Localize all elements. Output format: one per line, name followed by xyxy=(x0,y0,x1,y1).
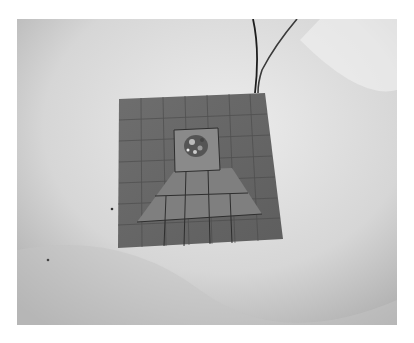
speck xyxy=(111,208,114,211)
tiled-board xyxy=(118,93,283,248)
center-sample xyxy=(184,135,208,157)
photograph xyxy=(17,19,397,325)
speck xyxy=(47,259,50,262)
